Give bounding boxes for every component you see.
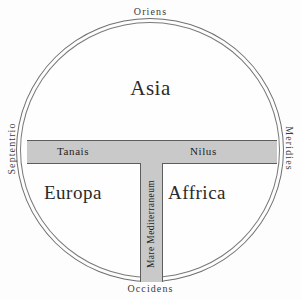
water-label-tanais: Tanais (57, 145, 89, 157)
t-o-map-diagram: Asia Europa Affrica Tanais Nilus Mare Me… (0, 0, 301, 300)
cardinal-label-meridies: Meridies (284, 114, 295, 184)
region-label-affrica: Affrica (168, 182, 226, 204)
region-label-europa: Europa (44, 182, 102, 204)
cardinal-label-oriens: Oriens (0, 6, 301, 17)
cardinal-label-occidens: Occidens (0, 283, 301, 294)
region-label-asia: Asia (0, 76, 301, 101)
water-label-mare-mediterraneum: Mare Mediterraneum (141, 170, 162, 278)
water-label-nilus: Nilus (190, 145, 217, 157)
cardinal-label-septentrio: Septentrio (6, 114, 17, 184)
water-label-mare-mediterraneum-text: Mare Mediterraneum (147, 180, 157, 268)
